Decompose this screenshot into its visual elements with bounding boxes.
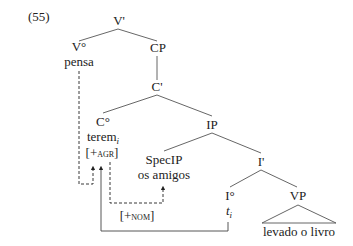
tree-lines (0, 0, 353, 246)
node-specip: SpecIP (146, 153, 183, 167)
branch-cbar-c0 (103, 95, 157, 113)
example-number: (55) (28, 10, 50, 24)
feature-nom: [+nom] (120, 209, 155, 223)
node-vp: VP (290, 189, 307, 203)
branch-ibar-i0 (230, 170, 261, 187)
feature-agr: [+agr] (86, 146, 119, 160)
branch-ip-specip (164, 133, 212, 151)
dashed-arrow-pensa-to-c0 (79, 71, 93, 184)
node-i0: I° (225, 189, 235, 203)
word-terem-text: terem (87, 129, 117, 144)
vp-triangle (262, 205, 336, 223)
node-vbar: V' (113, 14, 125, 28)
branch-ip-ibar (212, 133, 261, 153)
node-ibar: I' (258, 155, 265, 169)
branch-cbar-ip (157, 95, 212, 116)
words-os-amigos: os amigos (138, 168, 190, 182)
node-cp: CP (150, 41, 166, 55)
node-ip: IP (206, 118, 218, 132)
node-cbar: C' (151, 80, 162, 94)
node-c0: C° (96, 115, 110, 129)
node-v0: V° (72, 40, 87, 54)
words-levado-o-livro: levado o livro (263, 225, 335, 239)
branch-ibar-vp (261, 170, 297, 187)
word-pensa: pensa (64, 55, 94, 69)
trace-t: ti (226, 204, 232, 222)
